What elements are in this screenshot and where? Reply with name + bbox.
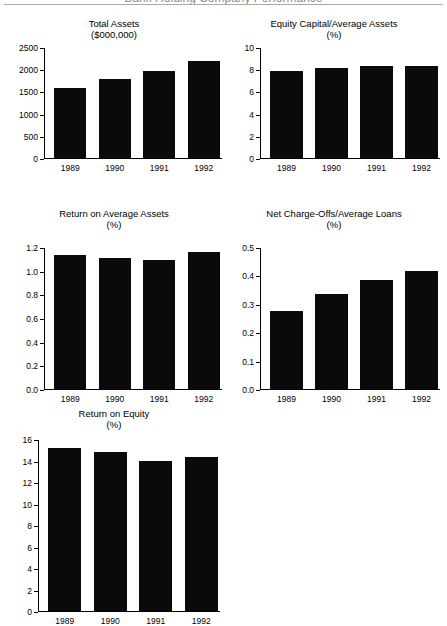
y-tick-label: 1.0	[26, 267, 38, 276]
x-tick-label: 1990	[93, 164, 138, 173]
x-tick-label: 1992	[399, 164, 444, 173]
y-axis	[44, 248, 45, 390]
bar-1990	[315, 294, 347, 389]
y-tick	[34, 440, 38, 441]
y-tick	[34, 548, 38, 549]
bar-1992	[188, 61, 220, 158]
chart-subtitle: (%)	[8, 419, 220, 430]
bar-1991	[143, 260, 175, 389]
y-tick	[34, 526, 38, 527]
y-tick	[40, 295, 44, 296]
y-tick-label: 10	[23, 500, 32, 509]
bar-1990	[94, 452, 127, 611]
bar-1991	[143, 71, 175, 158]
chart-subtitle: (%)	[8, 219, 220, 230]
y-tick-label: 12	[23, 479, 32, 488]
bar-1990	[99, 258, 131, 389]
chart-title: Return on Average Assets	[8, 208, 220, 219]
x-tick-label: 1990	[88, 617, 134, 626]
plot-area: 0246810121416	[38, 440, 220, 612]
y-tick	[40, 137, 44, 138]
y-tick-label: 4	[249, 110, 254, 119]
y-tick	[40, 272, 44, 273]
y-tick	[40, 115, 44, 116]
y-tick	[34, 591, 38, 592]
x-tick-label: 1991	[137, 164, 182, 173]
y-tick	[256, 362, 260, 363]
y-tick	[34, 462, 38, 463]
y-tick	[40, 248, 44, 249]
y-tick	[256, 48, 260, 49]
x-tick-label: 1990	[309, 395, 354, 404]
chart-title: Net Charge-Offs/Average Loans	[228, 208, 440, 219]
x-tick-label: 1991	[354, 164, 399, 173]
y-axis	[44, 48, 45, 159]
y-tick-label: 0.8	[26, 291, 38, 300]
y-tick-label: 0.2	[242, 329, 254, 338]
bar-1992	[405, 66, 437, 158]
y-tick	[40, 48, 44, 49]
x-tick-label: 1992	[399, 395, 444, 404]
bar-1990	[99, 79, 131, 158]
x-tick-label: 1992	[182, 164, 227, 173]
y-tick-label: 6	[27, 543, 32, 552]
y-tick-label: 500	[24, 133, 38, 142]
plot-area: 0.00.20.40.60.81.01.2	[44, 248, 222, 390]
y-tick-label: 10	[245, 44, 254, 53]
bar-1989	[54, 88, 86, 158]
x-tick-label: 1991	[137, 395, 182, 404]
x-tick-label: 1991	[354, 395, 399, 404]
bar-1992	[405, 271, 437, 389]
y-axis	[38, 440, 39, 612]
y-axis	[260, 48, 261, 159]
y-tick	[40, 343, 44, 344]
page-banner: Bank Holding Company Performance	[0, 0, 447, 6]
y-tick-label: 0.0	[26, 386, 38, 395]
y-tick-label: 0.1	[242, 357, 254, 366]
y-tick-label: 1000	[19, 110, 38, 119]
bar-1989	[270, 311, 302, 389]
y-tick	[256, 70, 260, 71]
banner-divider	[4, 4, 443, 5]
y-tick-label: 2500	[19, 44, 38, 53]
y-tick-label: 0.5	[242, 244, 254, 253]
bar-1992	[188, 252, 220, 389]
y-tick-label: 6	[249, 88, 254, 97]
x-axis	[260, 389, 440, 390]
y-tick	[34, 612, 38, 613]
bar-1991	[139, 461, 172, 612]
x-tick-label: 1989	[264, 164, 309, 173]
chart-title: Return on Equity	[8, 408, 220, 419]
y-tick-label: 1500	[19, 88, 38, 97]
x-tick-label: 1990	[309, 164, 354, 173]
y-tick-label: 1.2	[26, 244, 38, 253]
y-tick-label: 8	[27, 522, 32, 531]
chart-title: Equity Capital/Average Assets	[228, 18, 440, 29]
y-tick	[34, 569, 38, 570]
y-tick	[40, 159, 44, 160]
y-tick-label: 2	[249, 133, 254, 142]
y-tick	[34, 483, 38, 484]
y-tick-label: 14	[23, 457, 32, 466]
y-tick	[256, 333, 260, 334]
y-tick-label: 0	[249, 155, 254, 164]
y-tick-label: 0.3	[242, 301, 254, 310]
bar-1992	[185, 457, 218, 611]
x-tick-label: 1989	[48, 164, 93, 173]
y-tick-label: 4	[27, 565, 32, 574]
y-tick	[256, 137, 260, 138]
y-axis	[260, 248, 261, 390]
y-tick-label: 0	[33, 155, 38, 164]
chart-title: Total Assets	[8, 18, 220, 29]
x-axis	[38, 611, 220, 612]
y-tick	[256, 248, 260, 249]
plot-area: 0.00.10.20.30.40.5	[260, 248, 440, 390]
y-tick-label: 0.4	[26, 338, 38, 347]
x-tick-label: 1991	[133, 617, 179, 626]
y-tick	[40, 366, 44, 367]
y-tick	[40, 92, 44, 93]
y-tick	[256, 276, 260, 277]
y-tick	[40, 70, 44, 71]
x-tick-label: 1992	[182, 395, 227, 404]
